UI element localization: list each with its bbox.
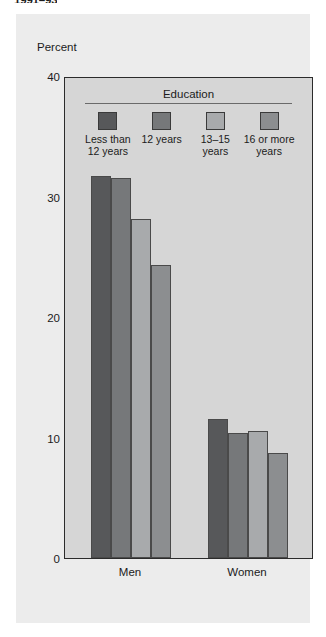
legend-label: 13–15 years [189,134,243,157]
legend-swatch-icon [206,112,225,130]
legend-item[interactable]: 12 years [135,112,189,157]
x-tick-label: Men [119,566,141,578]
y-axis-caption: Percent [37,41,77,53]
y-tick-label: 20 [32,312,60,324]
legend-label: 12 years [141,134,181,146]
bar[interactable] [208,419,228,558]
bar[interactable] [151,265,171,558]
bar[interactable] [268,453,288,558]
legend-label: 16 or more years [242,134,296,157]
y-axis-tick-labels: 010203040 [30,77,60,559]
bar[interactable] [131,219,151,558]
legend: Education Less than 12 years12 years13–1… [73,88,304,157]
legend-swatch-icon [152,112,171,130]
legend-label: Less than 12 years [81,134,135,157]
x-tick-label: Women [227,566,266,578]
figure-card: Percent 010203040 Education Less than 12… [16,14,310,623]
plot-area: Education Less than 12 years12 years13–1… [64,77,313,559]
y-tick-label: 0 [32,553,60,565]
y-tick-label: 40 [32,71,60,83]
legend-swatch-icon [260,112,279,130]
bar[interactable] [228,433,248,558]
legend-swatch-icon [98,112,117,130]
bar[interactable] [248,431,268,558]
bar-group [208,419,288,558]
legend-item[interactable]: 13–15 years [189,112,243,157]
legend-item[interactable]: 16 or more years [242,112,296,157]
legend-item[interactable]: Less than 12 years [81,112,135,157]
legend-title: Education [73,88,304,100]
bar[interactable] [91,176,111,558]
bar-group [91,176,171,558]
y-tick-label: 30 [32,192,60,204]
bar[interactable] [111,178,131,558]
y-tick-label: 10 [32,433,60,445]
legend-divider [85,103,292,104]
legend-items: Less than 12 years12 years13–15 years16 … [73,112,304,157]
cut-off-header-title: 1991–93 [14,0,57,3]
